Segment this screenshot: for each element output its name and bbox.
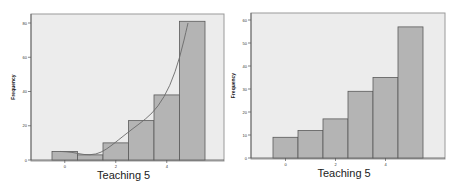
y-tick-label: 50 xyxy=(243,41,248,46)
histogram-right: 0102030405060024FrequencyTeaching 5 xyxy=(230,0,460,191)
histogram-left: 020406080024FrequencyTeaching 5 xyxy=(0,0,230,191)
histogram-bar xyxy=(373,78,398,159)
histogram-bar xyxy=(298,130,323,158)
histogram-bar xyxy=(154,95,180,160)
y-tick-label: 80 xyxy=(23,21,28,26)
y-tick-label: 60 xyxy=(23,55,28,60)
histogram-bar xyxy=(323,119,348,158)
histogram-left-svg: 020406080024FrequencyTeaching 5 xyxy=(0,0,230,191)
x-tick-label: 4 xyxy=(166,164,169,169)
y-tick-label: 20 xyxy=(23,123,28,128)
y-tick-label: 30 xyxy=(243,87,248,92)
histogram-bar xyxy=(273,137,298,158)
x-axis-label: Teaching 5 xyxy=(318,167,371,179)
histogram-bar xyxy=(78,155,104,160)
x-tick-label: 0 xyxy=(64,164,67,169)
y-axis-label: Frequency xyxy=(10,74,16,100)
histogram-bar xyxy=(348,91,373,158)
histogram-bar xyxy=(129,121,155,160)
y-tick-label: 20 xyxy=(243,110,248,115)
y-axis-label: Frequency xyxy=(230,73,236,99)
y-tick-label: 60 xyxy=(243,18,248,23)
x-axis-label: Teaching 5 xyxy=(97,169,150,181)
x-tick-label: 0 xyxy=(284,162,287,167)
histogram-bar xyxy=(398,27,423,158)
histogram-bar xyxy=(103,143,129,160)
y-tick-label: 40 xyxy=(23,89,28,94)
y-tick-label: 40 xyxy=(243,64,248,69)
histogram-right-svg: 0102030405060024FrequencyTeaching 5 xyxy=(230,0,460,191)
y-tick-label: 0 xyxy=(25,158,28,163)
x-tick-label: 4 xyxy=(384,162,387,167)
y-tick-label: 0 xyxy=(245,156,248,161)
y-tick-label: 10 xyxy=(243,133,248,138)
